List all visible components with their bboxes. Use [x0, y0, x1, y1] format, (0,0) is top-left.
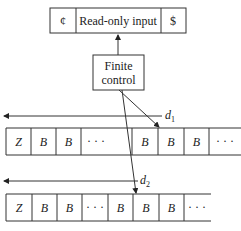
tape2: Z B B · · · B B B · · ·	[6, 194, 211, 221]
tape2-cell: B	[66, 201, 74, 215]
two-counter-machine-diagram: ¢ Read-only input $ Finite control d 1 Z…	[0, 0, 241, 231]
left-endmarker: ¢	[60, 14, 66, 28]
tape1-direction-sub: 1	[171, 115, 175, 124]
input-tape: ¢ Read-only input $	[50, 8, 186, 33]
tape1-ellipsis: · · ·	[216, 134, 234, 148]
tape2-head-arrow	[122, 90, 136, 193]
right-endmarker: $	[170, 14, 176, 28]
tape2-direction-sub: 2	[146, 180, 150, 189]
tape2-cell: B	[117, 201, 125, 215]
tape2-ellipsis: · · ·	[188, 200, 206, 214]
tape2-cell: B	[168, 201, 176, 215]
finite-control: Finite control	[93, 55, 144, 90]
tape1-cell: B	[40, 135, 48, 149]
tape1-cell: B	[167, 135, 175, 149]
tape2-cell: B	[41, 201, 49, 215]
tape2-cell: Z	[16, 201, 23, 215]
tape1-cell: B	[193, 135, 201, 149]
finite-control-line2: control	[102, 73, 137, 87]
tape1-cell: B	[65, 135, 73, 149]
tape2-ellipsis: · · ·	[86, 200, 104, 214]
finite-control-line1: Finite	[104, 59, 132, 73]
tape1: Z B B · · · B B B · · ·	[6, 128, 241, 155]
input-tape-label: Read-only input	[79, 14, 157, 28]
tape1-cell: B	[141, 135, 149, 149]
tape2-cell: B	[142, 201, 150, 215]
tape1-cell: Z	[15, 135, 22, 149]
tape1-ellipsis: · · ·	[87, 134, 105, 148]
